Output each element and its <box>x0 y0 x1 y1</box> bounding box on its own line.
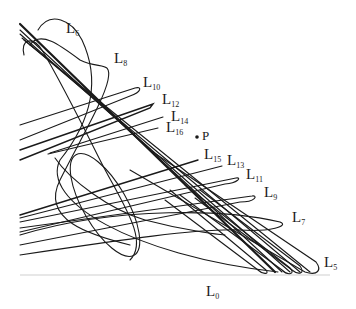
label-l11: L11 <box>246 167 263 184</box>
label-l6: L6 <box>66 21 79 38</box>
label-l10: L10 <box>143 75 160 92</box>
curve-diagram: L6 L8 L10 L12 L14 L16 L15 L13 L11 L9 L7 … <box>0 0 356 309</box>
label-point-p: P <box>202 128 209 144</box>
label-l9: L9 <box>264 185 277 202</box>
label-l16: L16 <box>166 120 183 137</box>
label-l15: L15 <box>204 147 221 164</box>
label-l7: L7 <box>292 210 305 227</box>
curves-svg <box>0 0 356 309</box>
label-l5: L5 <box>324 255 337 272</box>
label-l8: L8 <box>114 51 127 68</box>
curve-bundle-5 <box>24 40 310 272</box>
label-l0: L0 <box>206 284 219 301</box>
label-l13: L13 <box>227 153 244 170</box>
curve-l5 <box>130 150 319 273</box>
label-l12: L12 <box>162 92 179 109</box>
point-p <box>195 135 199 139</box>
curve-l10 <box>20 88 140 140</box>
